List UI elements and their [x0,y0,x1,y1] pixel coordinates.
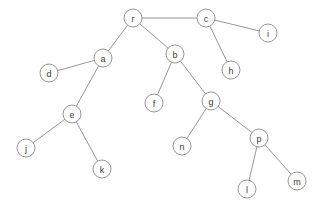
node-label-m: m [293,177,301,187]
edge-c-h [210,26,227,62]
edge-b-g [180,61,205,94]
edge-e-k [76,122,97,161]
node-l[interactable]: l [238,180,256,198]
edge-r-a [108,25,127,51]
tree-diagram: rcihabdejkfgnplm [0,0,323,212]
node-label-p: p [256,134,261,144]
node-label-j: j [24,144,27,154]
node-label-r: r [132,14,135,24]
node-label-d: d [46,69,51,79]
edge-p-l [249,147,257,180]
node-g[interactable]: g [202,92,220,110]
edge-a-e [76,66,98,106]
node-n[interactable]: n [173,137,191,155]
edge-c-i [215,20,260,31]
node-label-i: i [267,29,269,39]
node-label-c: c [204,14,209,24]
node-k[interactable]: k [93,160,111,178]
node-r[interactable]: r [124,9,142,27]
node-label-g: g [208,97,213,107]
node-label-h: h [228,66,233,76]
node-c[interactable]: c [197,9,215,27]
node-p[interactable]: p [250,129,268,147]
node-f[interactable]: f [145,94,163,112]
node-b[interactable]: b [166,45,184,63]
nodes-layer: rcihabdejkfgnplm [17,9,306,198]
edge-g-p [218,106,252,132]
node-label-l: l [246,185,248,195]
node-label-a: a [100,54,105,64]
edge-g-n [187,109,206,139]
node-i[interactable]: i [259,24,277,42]
node-label-e: e [69,110,74,120]
node-j[interactable]: j [17,139,35,157]
edge-a-d [58,60,95,70]
node-d[interactable]: d [40,64,58,82]
edge-b-f [158,62,172,94]
edge-p-m [265,145,291,175]
node-m[interactable]: m [288,172,306,190]
node-h[interactable]: h [222,61,240,79]
edge-e-j [33,119,65,142]
node-label-n: n [179,142,184,152]
node-label-b: b [172,50,177,60]
edge-r-b [140,24,168,48]
node-e[interactable]: e [63,105,81,123]
node-a[interactable]: a [94,49,112,67]
node-label-k: k [100,165,105,175]
